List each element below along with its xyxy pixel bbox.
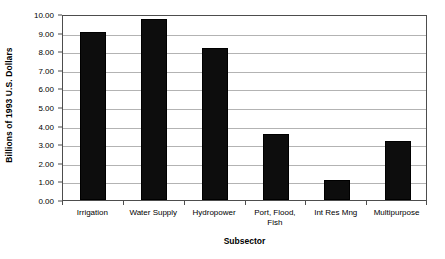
bar-slot	[185, 16, 246, 200]
x-tick-mark	[305, 201, 306, 205]
x-axis-labels: IrrigationWater SupplyHydropowerPort, Fl…	[62, 208, 427, 238]
y-tick-label: 0.00	[38, 197, 54, 206]
bar[interactable]	[80, 32, 106, 200]
x-axis-label-line: Int Res Mng	[305, 208, 366, 218]
x-axis-label-line: Port, Flood,	[245, 208, 306, 218]
y-tick-label: 8.00	[38, 48, 54, 57]
y-axis-ticks: 0.001.002.003.004.005.006.007.008.009.00…	[18, 15, 58, 201]
bar[interactable]	[385, 141, 411, 200]
y-tick-label: 10.00	[34, 11, 54, 20]
y-tick-label: 7.00	[38, 66, 54, 75]
bar[interactable]	[324, 180, 350, 200]
x-tick-mark	[366, 201, 367, 205]
y-tick-label: 6.00	[38, 85, 54, 94]
bar-slot	[367, 16, 428, 200]
bars-layer	[63, 16, 426, 200]
plot-area	[62, 15, 427, 201]
y-axis-title-text: Billions of 1993 U.S. Dollars	[4, 47, 14, 162]
x-tick-mark	[245, 201, 246, 205]
x-axis-title: Subsector	[62, 236, 427, 246]
y-tick-label: 1.00	[38, 178, 54, 187]
y-axis-title: Billions of 1993 U.S. Dollars	[0, 0, 18, 210]
x-axis-label: Multipurpose	[366, 208, 427, 218]
bar-chart: Billions of 1993 U.S. Dollars 0.001.002.…	[0, 0, 445, 259]
x-axis-label: Irrigation	[62, 208, 123, 218]
y-tick-label: 9.00	[38, 29, 54, 38]
bar-slot	[246, 16, 307, 200]
x-tick-mark	[184, 201, 185, 205]
x-axis-label-line: Hydropower	[184, 208, 245, 218]
bar[interactable]	[141, 19, 167, 200]
x-axis-label: Int Res Mng	[305, 208, 366, 218]
x-axis-label: Hydropower	[184, 208, 245, 218]
x-tick-mark	[62, 201, 63, 205]
y-tick-label: 3.00	[38, 141, 54, 150]
y-tick-label: 5.00	[38, 104, 54, 113]
x-axis-label: Port, Flood,Fish	[245, 208, 306, 228]
x-tick-mark	[426, 201, 427, 205]
bar[interactable]	[263, 134, 289, 200]
x-axis-label-line: Multipurpose	[366, 208, 427, 218]
bar-slot	[63, 16, 124, 200]
x-axis-label-line: Fish	[245, 218, 306, 228]
x-axis-label-line: Irrigation	[62, 208, 123, 218]
x-axis-ticks	[62, 201, 427, 206]
x-axis-label: Water Supply	[123, 208, 184, 218]
x-axis-label-line: Water Supply	[123, 208, 184, 218]
y-tick-label: 2.00	[38, 159, 54, 168]
y-tick-label: 4.00	[38, 122, 54, 131]
bar-slot	[306, 16, 367, 200]
bar[interactable]	[202, 48, 228, 200]
x-tick-mark	[123, 201, 124, 205]
bar-slot	[124, 16, 185, 200]
